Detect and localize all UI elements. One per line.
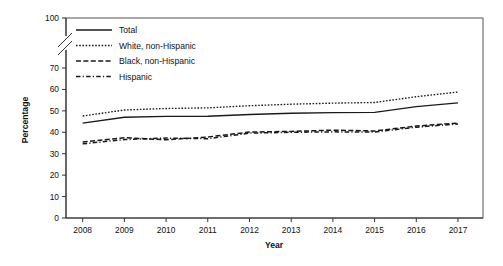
series-line-black-non-hispanic [83, 123, 458, 142]
x-tick-group: 2008200920102011201220132014201520162017 [73, 218, 467, 235]
x-axis-title: Year [265, 240, 284, 250]
legend-label-total: Total [119, 25, 137, 35]
y-tick-label-20: 20 [50, 170, 60, 180]
chart-figure: 010203040506070100 200820092010201120122… [0, 0, 503, 266]
series-line-total [83, 103, 458, 123]
chart-legend: TotalWhite, non-HispanicBlack, non-Hispa… [76, 25, 197, 81]
y-tick-label-30: 30 [50, 149, 60, 159]
x-tick-label-2014: 2014 [324, 225, 343, 235]
x-tick-label-2009: 2009 [115, 225, 134, 235]
x-tick-label-2010: 2010 [157, 225, 176, 235]
y-tick-label-100: 100 [45, 13, 59, 23]
y-tick-label-10: 10 [50, 192, 60, 202]
series-group [83, 92, 458, 144]
y-tick-label-50: 50 [50, 106, 60, 116]
series-line-white-non-hispanic [83, 92, 458, 116]
x-tick-label-2008: 2008 [73, 225, 92, 235]
y-tick-label-70: 70 [50, 63, 60, 73]
x-tick-label-2015: 2015 [365, 225, 384, 235]
y-tick-label-0: 0 [54, 213, 59, 223]
x-tick-label-2013: 2013 [282, 225, 301, 235]
x-tick-label-2017: 2017 [449, 225, 468, 235]
legend-label-hispanic: Hispanic [119, 72, 153, 82]
y-axis-title: Percentage [20, 97, 30, 144]
y-tick-label-60: 60 [50, 84, 60, 94]
line-chart: 010203040506070100 200820092010201120122… [0, 0, 503, 266]
series-line-hispanic [83, 124, 458, 144]
y-axis-break-icon [58, 33, 72, 55]
legend-label-white-non-hispanic: White, non-Hispanic [119, 41, 197, 51]
legend-label-black-non-hispanic: Black, non-Hispanic [119, 56, 196, 66]
x-tick-label-2012: 2012 [240, 225, 259, 235]
y-tick-label-40: 40 [50, 127, 60, 137]
x-tick-label-2016: 2016 [407, 225, 426, 235]
x-tick-label-2011: 2011 [199, 225, 217, 235]
